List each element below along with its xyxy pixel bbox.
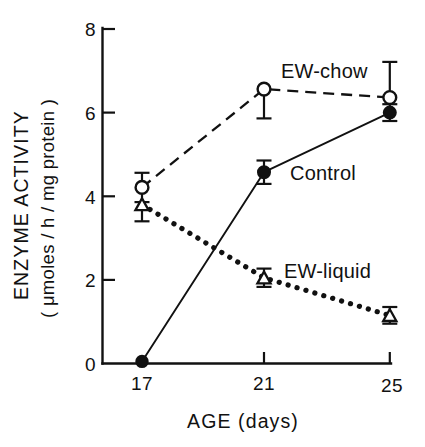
x-tick-label-17: 17 — [131, 373, 153, 394]
control-marker-25 — [384, 107, 396, 119]
y-tick-label-0: 0 — [85, 354, 96, 375]
y-tick-labels: 8 6 4 2 0 — [85, 19, 96, 375]
control-line — [142, 113, 390, 362]
y-tick-group — [103, 29, 116, 280]
y-axis-units: ( μmoles / h / mg protein ) — [37, 99, 58, 318]
enzyme-activity-chart: 8 6 4 2 0 17 21 25 ENZYME ACTIVITY ( μmo… — [0, 0, 425, 447]
x-tick-group — [142, 352, 390, 364]
y-tick-label-8: 8 — [85, 19, 96, 40]
figure-root: 8 6 4 2 0 17 21 25 ENZYME ACTIVITY ( μmo… — [0, 0, 425, 447]
x-axis-title: AGE (days) — [187, 410, 299, 432]
y-tick-label-4: 4 — [85, 187, 96, 208]
ew-chow-marker-21 — [258, 83, 271, 96]
y-tick-label-2: 2 — [85, 270, 96, 291]
control-marker-21 — [258, 166, 270, 178]
series-label-ew-liquid: EW-liquid — [284, 260, 371, 282]
y-axis-title: ENZYME ACTIVITY — [10, 110, 32, 300]
series-control — [136, 104, 397, 367]
series-label-control: Control — [290, 162, 356, 184]
ew-liquid-marker-17 — [135, 198, 148, 210]
x-tick-labels: 17 21 25 — [131, 373, 403, 396]
x-tick-label-21: 21 — [253, 373, 275, 394]
y-tick-label-6: 6 — [85, 103, 96, 124]
ew-chow-marker-17 — [136, 181, 149, 194]
series-ew-chow — [135, 62, 398, 202]
x-tick-label-25: 25 — [381, 375, 403, 396]
ew-chow-marker-25 — [383, 91, 396, 104]
control-marker-17 — [136, 356, 147, 367]
series-label-ew-chow: EW-chow — [281, 60, 368, 82]
